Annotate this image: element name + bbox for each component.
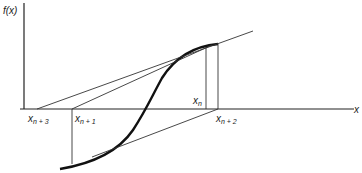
secant-method-diagram: f(x) x xn + 3 xn + 1 xn xn + 2 bbox=[0, 0, 362, 173]
secant-line-xn1 bbox=[72, 45, 212, 109]
label-xn: xn bbox=[192, 95, 202, 107]
label-xn1: xn + 1 bbox=[74, 113, 96, 125]
x-axis-label: x bbox=[353, 104, 360, 115]
label-xn3: xn + 3 bbox=[27, 113, 49, 125]
y-axis-label: f(x) bbox=[3, 5, 17, 16]
secant-line-xn3 bbox=[37, 31, 253, 109]
secant-line-xn2 bbox=[92, 109, 218, 157]
function-curve bbox=[60, 44, 218, 169]
label-xn2: xn + 2 bbox=[215, 113, 237, 125]
